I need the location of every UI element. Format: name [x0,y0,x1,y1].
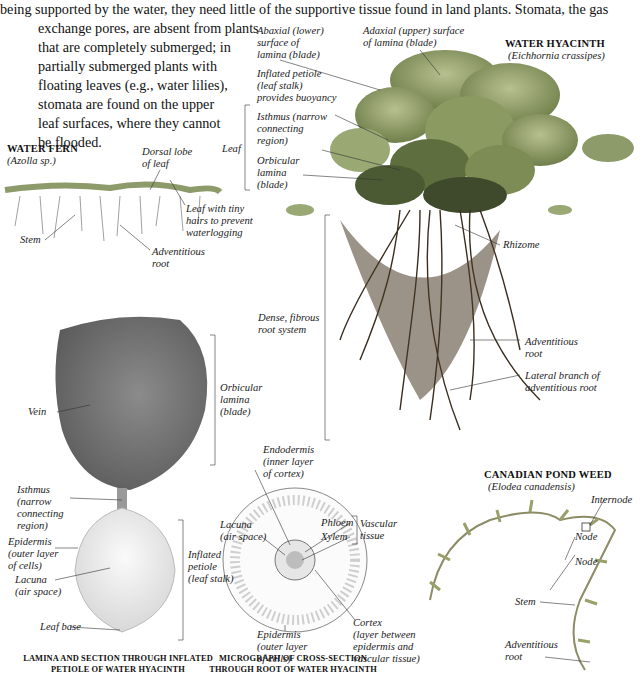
label-lamina-orbicular-3: (blade) [220,406,251,418]
label-endodermis-1: Endodermis [263,444,314,456]
micrograph-caption-1: MICROGRAPH OF CROSS-SECTION [208,653,378,664]
label-lamina-epidermis-1: Epidermis [8,536,52,548]
label-lamina-epidermis-3: of cells) [8,560,42,572]
label-inflated-petiole-3: provides buoyancy [257,92,336,104]
label-phloem: Phloem [321,517,353,529]
label-lamina-orbicular-1: Orbicular [220,382,262,394]
water-fern-species: (Azolla sp.) [7,155,56,167]
label-pond-root-1: Adventitious [505,639,558,651]
intro-line-2: exchange pores, are absent from plants [38,19,259,39]
root-micrograph-drawing [223,488,367,632]
intro-line-5: floating leaves (e.g., water lilies), [38,76,228,96]
label-pond-stem: Stem [515,596,536,608]
intro-line-1: being supported by the water, they need … [0,0,608,20]
label-lamina-petiole-1: Inflated [188,549,221,561]
label-node-2: Node [575,556,597,568]
label-cortex-1: Cortex [353,617,382,629]
label-adaxial-1: Adaxial (upper) surface [363,25,464,37]
label-dorsal-lobe-2: of leaf [142,158,169,170]
label-lamina-petiole-2: petiole [188,561,217,573]
label-node-1: Node [575,531,597,543]
label-cortex-2: (layer between [353,629,416,641]
label-isthmus-3: region) [257,135,288,147]
label-lamina-lacuna-1: Lacuna [15,574,47,586]
label-dense-root-2: root system [258,324,306,336]
label-micro-epidermis-2: (outer layer [257,641,307,653]
label-isthmus-2: connecting [257,123,303,135]
label-lamina-petiole-3: (leaf stalk) [188,573,234,585]
label-inflated-petiole-2: (leaf stalk) [257,80,303,92]
label-adaxial-2: of lamina (blade) [363,37,437,49]
label-internode: Internode [591,494,632,506]
label-lamina-isthmus-2: (narrow [17,496,51,508]
label-orbicular-2: lamina [257,167,286,179]
label-abaxial-1: Abaxial (lower) [257,25,324,37]
label-leaf-base: Leaf base [40,621,81,633]
label-micro-epidermis-1: Epidermis [257,629,301,641]
label-vascular-2: tissue [360,530,384,542]
lamina-caption-2: PETIOLE OF WATER HYACINTH [18,664,218,675]
label-xylem: Xylem [321,531,347,543]
label-isthmus-1: Isthmus (narrow [257,111,327,123]
label-abaxial-3: lamina (blade) [257,49,320,61]
label-abaxial-2: surface of [257,37,299,49]
label-adventitious-root-2: root [525,348,542,360]
label-lamina-isthmus-4: region) [17,520,48,532]
label-fern-root-1: Adventitious [152,246,205,258]
label-lateral-branch-2: adventitious root [525,382,597,394]
micrograph-caption-2: THROUGH ROOT OF WATER HYACINTH [208,664,378,675]
pond-weed-species: (Elodea canadensis) [488,481,575,493]
label-fern-root-2: root [152,258,169,270]
label-rhizome: Rhizome [503,239,539,251]
label-inflated-petiole-1: Inflated petiole [257,68,321,80]
label-leaf-hairs-1: Leaf with tiny [186,203,244,215]
label-orbicular-1: Orbicular [257,155,299,167]
label-endodermis-2: (inner layer [263,456,313,468]
label-lamina-orbicular-2: lamina [220,394,249,406]
lamina-caption-1: LAMINA AND SECTION THROUGH INFLATED [18,653,218,664]
label-vascular-1: Vascular [360,518,397,530]
label-vein: Vein [28,406,46,418]
label-leaf-hairs-3: waterlogging [186,227,243,239]
label-lamina-epidermis-2: (outer layer [8,548,58,560]
label-dense-root-1: Dense, fibrous [258,312,319,324]
label-lateral-branch-1: Lateral branch of [525,370,600,382]
label-lamina-isthmus-1: Isthmus [17,484,50,496]
label-orbicular-3: (blade) [257,179,288,191]
intro-line-6: stomata are found on the upper [38,95,214,115]
label-adventitious-root-1: Adventitious [525,336,578,348]
water-hyacinth-species: (Eichhornia crassipes) [508,50,605,62]
label-micro-lacuna-1: Lacuna [220,519,252,531]
pond-weed-title: CANADIAN POND WEED [484,469,612,481]
intro-line-4: partially submerged plants with [38,57,217,77]
intro-line-7: leaf surfaces, where they cannot [38,114,220,134]
label-leaf: Leaf [222,143,241,155]
label-fern-stem: Stem [20,234,41,246]
water-hyacinth-title: WATER HYACINTH [505,38,605,50]
label-cortex-3: epidermis and [353,641,413,653]
label-lamina-isthmus-3: connecting [17,508,63,520]
label-dorsal-lobe-1: Dorsal lobe [142,146,192,158]
label-pond-root-2: root [505,651,522,663]
intro-line-3: that are completely submerged; in [38,38,231,58]
water-fern-title: WATER FERN [7,143,78,155]
label-endodermis-3: of cortex) [263,468,304,480]
label-leaf-hairs-2: hairs to prevent [186,215,253,227]
label-micro-lacuna-2: (air space) [220,531,266,543]
lamina-section-drawing [55,317,207,632]
label-lamina-lacuna-2: (air space) [15,586,61,598]
